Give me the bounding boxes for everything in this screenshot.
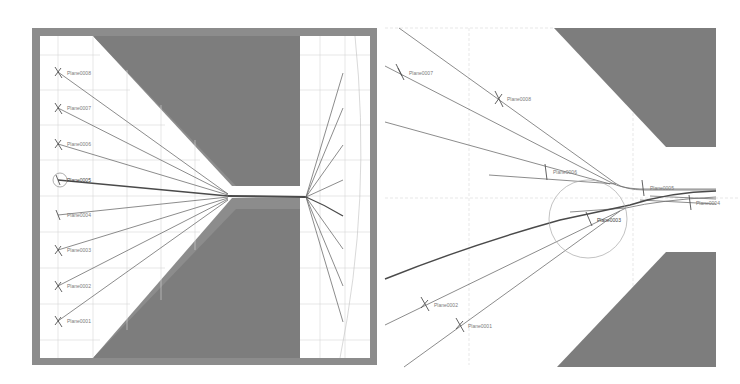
plane-label: Plane0002 [434,302,458,308]
plane-label-selected: Plane0005 [67,177,91,183]
overview-panel: Plane0008 Plane0007 Plane0006 Plane0005 … [0,0,370,384]
plane-label: Plane0001 [67,318,91,324]
plane-label: Plane0004 [696,200,720,206]
plane-label: Plane0003 [67,247,91,253]
upper-obstacle [554,28,716,147]
overview-canvas: Plane0008 Plane0007 Plane0006 Plane0005 … [0,0,370,384]
outlet-region [300,36,370,358]
plane-label: Plane0007 [67,105,91,111]
plane-label: Plane0004 [67,212,91,218]
frame-edge [370,28,377,365]
plane-label: Plane0001 [468,323,492,329]
detail-canvas: Plane0007 Plane0008 Plane0006 Plane0005 … [370,0,740,384]
plane-label-selected: Plane0003 [597,217,621,223]
plane-label: Plane0005 [650,185,674,191]
detail-panel: Plane0007 Plane0008 Plane0006 Plane0005 … [370,0,740,384]
plane-label: Plane0002 [67,283,91,289]
plane-label: Plane0008 [507,96,531,102]
plane-label: Plane0006 [67,141,91,147]
plane-label: Plane0007 [409,70,433,76]
plane-label: Plane0006 [553,169,577,175]
plane-label: Plane0008 [67,70,91,76]
lower-obstacle [557,252,716,367]
channel-bundle [228,196,306,197]
